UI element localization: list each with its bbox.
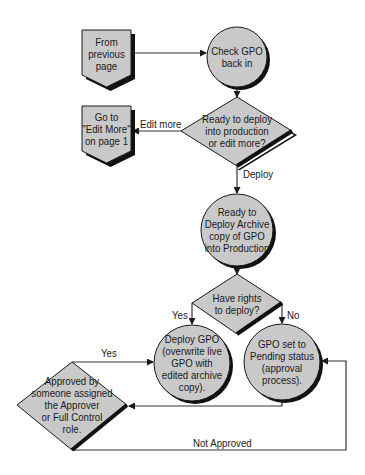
not-approved-label: Not Approved	[193, 437, 252, 449]
rights-yes-label: Yes	[172, 309, 188, 321]
pending-text: GPO set to Pending status (approval proc…	[242, 338, 321, 386]
check-in-text: Check GPO back in	[206, 45, 268, 69]
approved-decision-text: Approved by someone assigned the Approve…	[19, 375, 125, 435]
from-previous-text: From previous page	[81, 36, 131, 72]
deploy-gpo-text: Deploy GPO (overwrite live GPO with edit…	[152, 333, 231, 393]
edit-more-label: Edit more	[140, 118, 181, 130]
go-to-edit-text: Go to "Edit More" on page 1	[78, 111, 135, 147]
deploy-label: Deploy	[243, 168, 273, 180]
ready-decision-text: Ready to deploy into production or edit …	[197, 113, 276, 149]
rights-no-label: No	[287, 309, 299, 321]
rights-decision-text: Have rights to deploy?	[206, 292, 268, 316]
approved-yes-label: Yes	[101, 347, 117, 359]
ready-archive-text: Ready to Deploy Archive copy of GPO into…	[197, 206, 276, 254]
